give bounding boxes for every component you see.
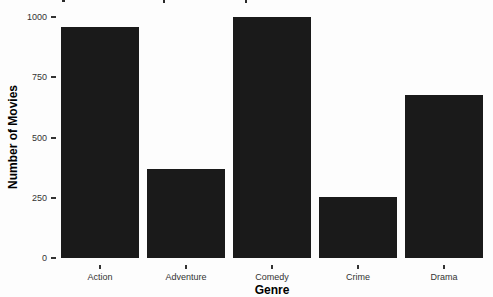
y-tick-label: 250 (15, 193, 47, 202)
y-tick-mark (51, 137, 56, 139)
clipped-title-fragment (62, 0, 65, 2)
bar-chart-figure: Number of Movies 02505007501000 ActionAd… (0, 0, 493, 297)
x-tick-label: Crime (346, 273, 370, 282)
bar-comedy (233, 17, 311, 258)
x-tick-label: Action (87, 273, 112, 282)
y-tick-label: 1000 (15, 13, 47, 22)
x-tick-mark (99, 265, 101, 269)
y-tick-mark (51, 16, 56, 18)
x-tick-label: Comedy (255, 273, 289, 282)
bar-drama (405, 95, 483, 258)
y-tick-label: 500 (15, 133, 47, 142)
x-tick-mark (357, 265, 359, 269)
bar-action (61, 27, 139, 258)
y-tick-mark (51, 257, 56, 259)
x-tick-label: Adventure (165, 273, 206, 282)
x-tick-mark (271, 265, 273, 269)
x-axis-title: Genre (255, 284, 290, 296)
y-tick-mark (51, 76, 56, 78)
x-tick-label: Drama (430, 273, 457, 282)
x-tick-mark (443, 265, 445, 269)
y-tick-label: 750 (15, 73, 47, 82)
x-tick-mark (185, 265, 187, 269)
bar-adventure (147, 169, 225, 258)
clipped-title-fragment (163, 0, 165, 3)
clipped-title-fragment (245, 0, 247, 3)
bar-crime (319, 197, 397, 258)
y-tick-mark (51, 197, 56, 199)
y-tick-label: 0 (15, 254, 47, 263)
